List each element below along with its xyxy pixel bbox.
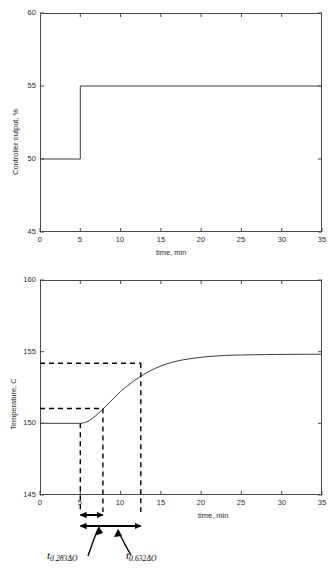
x-tick-label-10: 10	[110, 236, 130, 244]
x-axis-title-controller-output: time, min	[156, 249, 186, 257]
panel-temperature-response: 145 150 155 160 0 5 10 15 20 25 30 35 ti…	[0, 265, 336, 579]
y-axis-title-temperature: Temperature, C	[10, 378, 18, 430]
temperature-response-svg	[0, 265, 336, 579]
x-tick-label-35: 35	[312, 499, 332, 507]
y-tick-label-160: 160	[12, 276, 36, 284]
x-tick-label-25: 25	[231, 236, 251, 244]
x-axis-title-temperature: time, min	[198, 512, 228, 520]
annotation-t-0283: t0.283ΔO	[47, 550, 77, 562]
x-tick-label-35: 35	[312, 236, 332, 244]
x-tick-label-0: 0	[30, 236, 50, 244]
figure-step-response-plots: 45 50 55 60 0 5 10 15 20 25 30 35 time, …	[0, 0, 336, 579]
y-tick-label-60: 60	[16, 9, 36, 17]
y-tick-label-155: 155	[12, 348, 36, 356]
y-axis-title-controller-output: Controller output, %	[12, 109, 20, 175]
y-tick-label-45: 45	[16, 228, 36, 236]
construction-lines	[40, 363, 141, 512]
annotation-t-0632-subscript: 0.632ΔO	[129, 554, 156, 563]
x-tick-label-25: 25	[231, 499, 251, 507]
y-tick-label-145: 145	[12, 491, 36, 499]
x-axis-ticks	[40, 13, 322, 232]
x-tick-label-30: 30	[272, 499, 292, 507]
x-axis-ticks	[40, 280, 322, 495]
x-tick-label-15: 15	[151, 236, 171, 244]
x-tick-label-0: 0	[30, 499, 50, 507]
leader-arrowhead-t0632	[114, 529, 122, 537]
controller-output-trace	[40, 86, 322, 159]
annotation-t-0283-subscript: 0.283ΔO	[50, 554, 77, 563]
x-tick-label-5: 5	[70, 236, 90, 244]
y-tick-label-55: 55	[16, 82, 36, 90]
x-tick-label-5: 5	[70, 499, 90, 507]
x-tick-label-15: 15	[151, 499, 171, 507]
controller-output-svg	[0, 0, 336, 265]
x-tick-label-30: 30	[272, 236, 292, 244]
annotation-t-0632: t0.632ΔO	[126, 550, 156, 562]
y-axis-ticks	[40, 13, 322, 232]
temperature-trace	[40, 354, 322, 423]
x-tick-label-20: 20	[191, 499, 211, 507]
y-axis-ticks	[40, 280, 322, 495]
x-tick-label-10: 10	[110, 499, 130, 507]
x-tick-label-20: 20	[191, 236, 211, 244]
panel-controller-output: 45 50 55 60 0 5 10 15 20 25 30 35 time, …	[0, 0, 336, 265]
